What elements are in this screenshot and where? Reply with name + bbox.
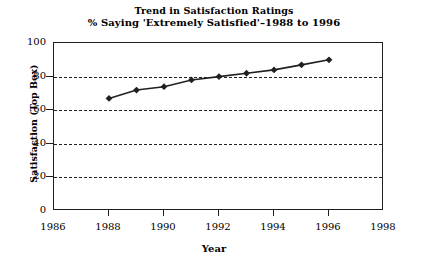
x-tick-label-1998: 1998 — [361, 222, 405, 232]
chart-title: Trend in Satisfaction Ratings — [0, 5, 428, 17]
data-point-1993 — [243, 70, 250, 77]
data-point-1995 — [298, 61, 305, 68]
data-point-1988 — [106, 95, 113, 102]
x-tick-1992 — [218, 210, 219, 216]
x-tick-label-1994: 1994 — [251, 222, 295, 232]
x-axis-label: Year — [0, 243, 428, 254]
data-point-1994 — [271, 66, 278, 73]
y-tick-60 — [46, 109, 53, 110]
plot-area — [53, 42, 383, 210]
x-tick-1994 — [273, 210, 274, 216]
x-tick-1988 — [108, 210, 109, 216]
x-tick-1990 — [163, 210, 164, 216]
y-tick-label-0: 0 — [14, 205, 46, 215]
y-axis-label: Satisfaction (Top Box) — [28, 39, 39, 209]
x-tick-label-1986: 1986 — [31, 222, 75, 232]
data-point-1992 — [216, 73, 223, 80]
y-tick-20 — [46, 176, 53, 177]
data-point-1991 — [188, 77, 195, 84]
x-tick-label-1988: 1988 — [86, 222, 130, 232]
y-tick-label-80: 80 — [14, 71, 46, 81]
x-tick-label-1996: 1996 — [306, 222, 350, 232]
y-tick-80 — [46, 76, 53, 77]
data-series-line — [54, 43, 384, 211]
y-tick-label-60: 60 — [14, 104, 46, 114]
y-tick-label-40: 40 — [14, 138, 46, 148]
data-point-1990 — [161, 83, 168, 90]
x-tick-1996 — [328, 210, 329, 216]
y-tick-label-20: 20 — [14, 171, 46, 181]
y-tick-40 — [46, 143, 53, 144]
x-tick-label-1992: 1992 — [196, 222, 240, 232]
data-point-1996 — [326, 56, 333, 63]
chart-title-block: Trend in Satisfaction Ratings % Saying '… — [0, 5, 428, 29]
chart-figure: Trend in Satisfaction Ratings % Saying '… — [0, 0, 428, 264]
chart-subtitle: % Saying 'Extremely Satisfied'–1988 to 1… — [0, 17, 428, 29]
data-point-1989 — [133, 87, 140, 94]
x-tick-label-1990: 1990 — [141, 222, 185, 232]
y-tick-label-100: 100 — [14, 37, 46, 47]
